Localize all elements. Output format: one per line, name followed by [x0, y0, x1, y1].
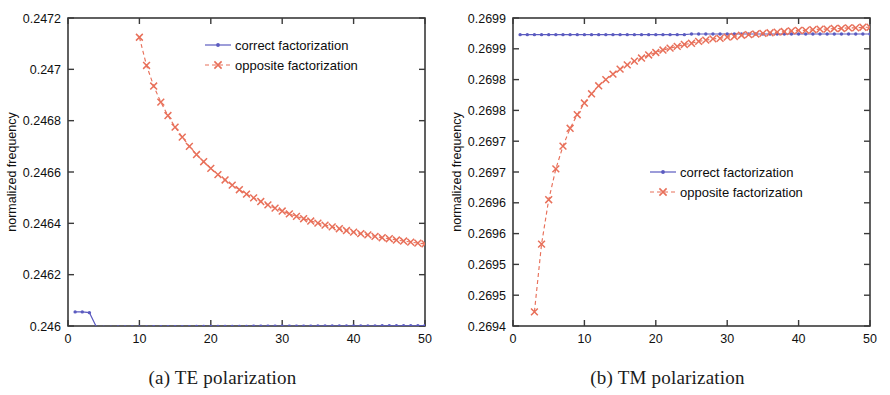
series-marker — [526, 33, 529, 36]
series-marker — [116, 325, 119, 328]
series-marker — [380, 324, 383, 327]
series-marker — [123, 325, 126, 328]
series-marker — [518, 33, 521, 36]
y-tick-label: 0.2466 — [23, 166, 61, 180]
legend-item: correct factorization — [650, 165, 793, 180]
series-marker — [300, 215, 307, 222]
series-marker — [854, 32, 857, 35]
series-marker — [745, 31, 752, 38]
y-tick-label: 0.2468 — [23, 114, 61, 128]
series-marker — [560, 143, 567, 150]
series-marker — [697, 32, 700, 35]
series-marker — [307, 218, 314, 225]
series-marker — [193, 151, 200, 158]
y-tick-label: 0.247 — [30, 63, 61, 77]
series-marker — [811, 32, 814, 35]
series-marker — [229, 182, 236, 189]
series-marker — [279, 208, 286, 215]
y-tick-label: 0.2698 — [468, 104, 506, 118]
series-marker — [602, 76, 609, 83]
series-marker — [143, 62, 150, 69]
series-marker — [861, 32, 864, 35]
series-marker — [711, 32, 714, 35]
series-marker — [145, 325, 148, 328]
plot-te: 010203040500.2460.24620.24640.24660.2468… — [0, 0, 445, 350]
y-tick-label: 0.2694 — [468, 320, 506, 334]
series-marker — [172, 124, 179, 131]
series-marker — [683, 33, 686, 36]
series-marker — [847, 32, 850, 35]
series-marker — [533, 33, 536, 36]
y-tick-label: 0.2697 — [468, 166, 506, 180]
x-tick-label: 30 — [275, 332, 289, 346]
series-marker — [315, 220, 322, 227]
x-tick-label: 40 — [792, 332, 806, 346]
series-marker — [833, 32, 836, 35]
y-tick-label: 0.2698 — [468, 73, 506, 87]
y-tick-label: 0.2696 — [468, 196, 506, 210]
series-marker — [215, 171, 222, 178]
series-marker — [554, 33, 557, 36]
series-marker — [760, 30, 767, 37]
series-marker — [322, 222, 329, 229]
series-marker — [236, 186, 243, 193]
x-tick-label: 50 — [418, 332, 432, 346]
series-marker — [359, 324, 362, 327]
series-marker — [647, 33, 650, 36]
series-marker — [179, 134, 186, 141]
series-marker — [690, 32, 693, 35]
series-marker — [373, 324, 376, 327]
series-marker — [316, 324, 319, 327]
series-marker — [207, 165, 214, 172]
series-marker — [138, 325, 141, 328]
x-tick-label: 10 — [577, 332, 591, 346]
x-tick-label: 30 — [720, 332, 734, 346]
legend-label: correct factorization — [235, 38, 348, 53]
series-marker — [345, 324, 348, 327]
series-marker — [265, 201, 272, 208]
series-marker — [583, 33, 586, 36]
legend-item: opposite factorization — [650, 185, 803, 200]
series-marker — [136, 34, 143, 41]
panel-te: 010203040500.2460.24620.24640.24660.2468… — [0, 0, 445, 395]
series-marker — [688, 40, 695, 47]
caption-tm: (b) TM polarization — [445, 367, 890, 389]
series-marker — [338, 324, 341, 327]
series-marker — [595, 82, 602, 89]
series-marker — [667, 45, 674, 52]
series-marker — [336, 225, 343, 232]
series-marker — [825, 32, 828, 35]
y-tick-label: 0.2696 — [468, 227, 506, 241]
series-marker — [323, 324, 326, 327]
series-marker — [638, 55, 645, 62]
x-tick-label: 0 — [65, 332, 72, 346]
series-marker — [590, 33, 593, 36]
panel-tm: 010203040500.26940.26950.26950.26960.269… — [445, 0, 890, 395]
series-marker — [395, 324, 398, 327]
series-marker — [631, 58, 638, 65]
series-marker — [645, 52, 652, 59]
y-tick-label: 0.2699 — [468, 12, 506, 26]
series-marker — [416, 324, 419, 327]
series-marker — [286, 210, 293, 217]
x-tick-label: 40 — [347, 332, 361, 346]
series-marker — [610, 71, 617, 78]
series-marker — [547, 33, 550, 36]
series-marker — [293, 213, 300, 220]
series-marker — [200, 158, 207, 165]
series-marker — [257, 198, 264, 205]
legend-marker — [216, 43, 220, 47]
series-line — [520, 34, 870, 35]
legend-label: correct factorization — [680, 165, 793, 180]
series-marker — [581, 100, 588, 107]
series-marker — [588, 90, 595, 97]
legend: correct factorizationopposite factorizat… — [650, 165, 803, 200]
series-marker — [157, 99, 164, 106]
x-tick-label: 0 — [510, 332, 517, 346]
series-marker — [567, 125, 574, 132]
caption-te: (a) TE polarization — [0, 367, 445, 389]
series-marker — [797, 32, 800, 35]
y-tick-label: 0.2699 — [468, 42, 506, 56]
legend-label: opposite factorization — [680, 185, 803, 200]
series-marker — [568, 33, 571, 36]
